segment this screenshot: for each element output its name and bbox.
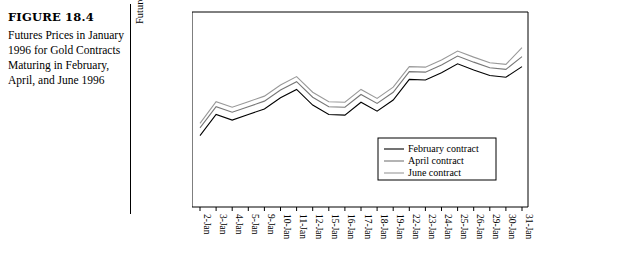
series-line [200, 48, 522, 124]
line-chart-svg: 380.00385.00390.00395.00400.00405.00410.… [192, 10, 622, 255]
series-line [200, 64, 522, 136]
x-tick-label: 10-Jan [282, 214, 292, 240]
x-tick-label: 31-Jan [524, 214, 534, 240]
legend-label: April contract [408, 155, 464, 166]
plot-area: 380.00385.00390.00395.00400.00405.00410.… [192, 10, 622, 255]
x-tick-label: 5-Jan [250, 214, 260, 235]
x-tick-label: 23-Jan [427, 214, 437, 240]
chart-container: Futures price ($/ounce) 380.00385.00390.… [130, 4, 625, 257]
x-tick-label: 4-Jan [234, 214, 244, 235]
x-tick-label: 3-Jan [218, 214, 228, 235]
figure-page: FIGURE 18.4 Futures Prices in January 19… [0, 0, 629, 261]
legend-label: February contract [408, 143, 479, 154]
figure-description: Futures Prices in January 1996 for Gold … [8, 28, 126, 88]
x-tick-label: 2-Jan [202, 214, 212, 235]
x-tick-label: 29-Jan [491, 214, 501, 240]
figure-number: FIGURE 18.4 [8, 10, 126, 24]
x-tick-label: 24-Jan [443, 214, 453, 240]
figure-caption: FIGURE 18.4 Futures Prices in January 19… [8, 10, 126, 88]
x-tick-label: 17-Jan [363, 214, 373, 240]
y-axis-label: Futures price ($/ounce) [134, 0, 148, 24]
x-tick-label: 26-Jan [475, 214, 485, 240]
caption-divider [130, 4, 131, 214]
x-tick-label: 18-Jan [379, 214, 389, 240]
x-tick-label: 30-Jan [507, 214, 517, 240]
x-tick-label: 25-Jan [459, 214, 469, 240]
x-tick-label: 19-Jan [395, 214, 405, 240]
x-tick-label: 12-Jan [314, 214, 324, 240]
x-tick-label: 22-Jan [411, 214, 421, 240]
x-tick-label: 9-Jan [266, 214, 276, 235]
series-line [200, 56, 522, 128]
x-tick-label: 16-Jan [346, 214, 356, 240]
x-tick-label: 11-Jan [298, 214, 308, 239]
legend-label: June contract [408, 167, 461, 178]
x-tick-label: 15-Jan [330, 214, 340, 240]
